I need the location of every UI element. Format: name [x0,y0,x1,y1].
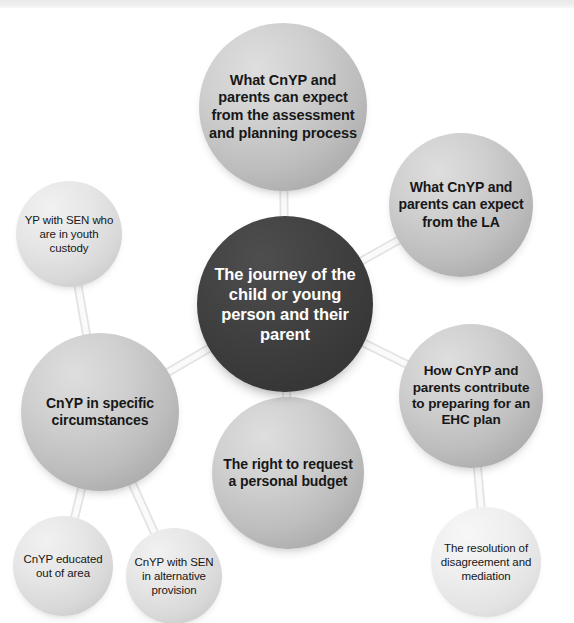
connector-line-highlight [131,481,155,535]
connector-line-highlight [166,347,212,374]
node-educated-out-of-area[interactable]: CnYP educated out of area [13,516,113,616]
node-alternative-provision[interactable]: CnYP with SEN in alternative provision [126,528,222,623]
node-label: CnYP with SEN in alternative provision [126,555,222,597]
node-label: What CnYP and parents can expect from th… [389,179,533,230]
node-label: CnYP in specific circumstances [21,395,179,429]
node-label: The right to request a personal budget [212,456,364,490]
node-label: What CnYP and parents can expect from th… [199,72,367,143]
connector-line-highlight [359,239,401,262]
node-journey-center[interactable]: The journey of the child or young person… [197,216,373,392]
center-node-label: The journey of the child or young person… [197,264,373,345]
node-label: YP with SEN who are in youth custody [16,213,122,255]
node-specific-circumstances[interactable]: CnYP in specific circumstances [21,333,179,491]
diagram-canvas: What CnYP and parents can expect from th… [0,0,574,623]
connector-line-highlight [361,342,409,366]
node-label: How CnYP and parents contribute to prepa… [399,363,543,429]
node-label: CnYP educated out of area [13,552,113,580]
node-expect-assessment[interactable]: What CnYP and parents can expect from th… [199,23,367,191]
node-expect-la[interactable]: What CnYP and parents can expect from th… [389,133,533,277]
node-label: The resolution of disagreement and media… [431,541,541,583]
node-contribute-ehc[interactable]: How CnYP and parents contribute to prepa… [399,324,543,468]
node-youth-custody[interactable]: YP with SEN who are in youth custody [16,181,122,287]
node-personal-budget[interactable]: The right to request a personal budget [212,397,364,549]
node-resolution[interactable]: The resolution of disagreement and media… [431,507,541,617]
